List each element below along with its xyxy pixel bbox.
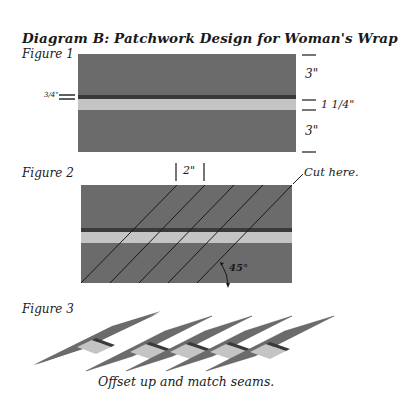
- figure-1-dim-left: 3/4": [44, 91, 59, 99]
- figure-3-caption: Offset up and match seams.: [98, 374, 274, 389]
- figure-2-label: Figure 2: [22, 166, 74, 180]
- figure-1-fabric-block: [78, 54, 296, 152]
- figure-1-dim-top: 3": [305, 67, 318, 81]
- figure-3-label: Figure 3: [22, 302, 74, 316]
- figure-2-dim-spacing: 2": [183, 164, 195, 177]
- figure-1-dim-middle: 1 1/4": [321, 98, 354, 111]
- cut-here-leader-line: [293, 174, 303, 184]
- figure-3-strip-single: [33, 311, 161, 365]
- angle-45-label: 45°: [229, 262, 248, 273]
- figure-1-left-dimension-marks: [59, 95, 75, 99]
- cut-here-label: Cut here.: [304, 165, 359, 179]
- figure-1-dim-bottom: 3": [305, 124, 318, 138]
